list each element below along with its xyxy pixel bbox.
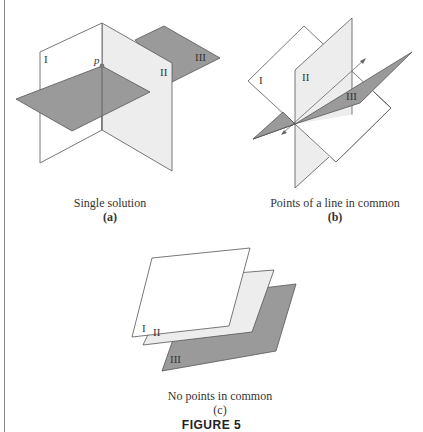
panel-a-caption-text: Single solution	[74, 196, 146, 210]
panel-b-label-ii: II	[302, 71, 310, 83]
panel-b-sub-label: (b)	[260, 210, 410, 224]
panel-c-sub-label: (c)	[150, 403, 290, 417]
panel-c-diagram	[132, 248, 296, 371]
panel-b-label-i: I	[259, 74, 263, 86]
panel-a-label-p: p	[93, 54, 100, 66]
panel-c-caption: No points in common (c)	[150, 389, 290, 417]
panel-a-label-iii: III	[195, 51, 206, 63]
panel-c-label-iii: III	[170, 353, 181, 365]
figure-title: FIGURE 5	[0, 418, 423, 432]
panel-a-label-i: I	[44, 53, 48, 65]
panel-a-sub-label: (a)	[60, 210, 160, 224]
point-p-marker	[100, 64, 105, 69]
panel-b-diagram	[248, 18, 412, 188]
panel-b-label-iii: III	[346, 90, 357, 102]
panel-b-caption: Points of a line in common (b)	[260, 196, 410, 224]
panel-c-caption-text: No points in common	[168, 389, 272, 403]
panel-c-label-ii: II	[153, 326, 161, 338]
arrowhead-down	[281, 130, 287, 135]
panel-a-label-ii: II	[160, 66, 168, 78]
panel-b-caption-text: Points of a line in common	[270, 196, 400, 210]
panel-a-diagram	[16, 23, 220, 171]
panel-c-label-i: I	[142, 322, 146, 334]
panel-a-caption: Single solution (a)	[60, 196, 160, 224]
